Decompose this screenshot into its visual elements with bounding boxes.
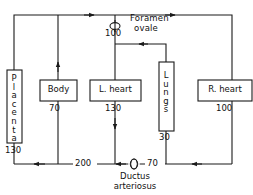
lungs-to-lheart-line: [115, 44, 166, 62]
node-value-l-heart: 130: [105, 104, 121, 113]
node-label-placenta: P l a c e n t a: [8, 74, 20, 143]
node-label-r-heart: R. heart: [198, 85, 252, 94]
node-value-r-heart: 100: [216, 104, 232, 113]
node-value-placenta: 130: [5, 146, 21, 155]
fetal-circulation-diagram: P l a c e n t a 130 Body 70 L. heart 130…: [0, 0, 253, 195]
node-label-lungs: L u n g s: [160, 71, 172, 114]
shunt-label-foramen-ovale-line1: Foramen: [130, 14, 169, 23]
lungs-letter: s: [160, 105, 172, 114]
node-value-lungs: 30: [159, 133, 170, 142]
flow-value-bottom-left: 200: [75, 159, 91, 168]
flow-value-bottom-right: 70: [147, 159, 158, 168]
ductus-arteriosus-icon: [128, 159, 140, 169]
shunt-label-ductus-arteriosus-line2: arteriosus: [104, 182, 166, 192]
node-label-l-heart: L. heart: [90, 85, 141, 94]
shunt-value-foramen-ovale: 100: [105, 29, 121, 38]
top-trunk-line: [14, 15, 232, 62]
diagram-lines-layer: [0, 0, 253, 195]
shunt-label-foramen-ovale-line2: ovale: [134, 24, 158, 33]
placenta-letter: a: [8, 134, 20, 143]
node-value-body: 70: [49, 104, 60, 113]
node-label-body: Body: [40, 85, 77, 94]
